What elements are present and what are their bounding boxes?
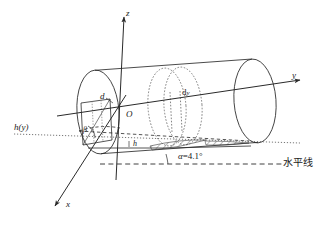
diameter-label: d [100,92,105,101]
liquid-surface-edge [79,131,249,141]
liquid-hatched-region [150,140,249,150]
liquid-wedge-shape-far [205,141,249,145]
depth-function-label: h(y) [14,123,29,132]
coordinate-axes [55,17,300,206]
y-axis-line [57,80,300,116]
cylinder-right-ellipse [231,58,279,145]
alpha-value: =4.1° [183,151,203,161]
cylinder-top-edge [95,59,252,70]
axis-label-y: y [292,71,296,80]
beta-angle-label: β [83,126,87,134]
slice-ellipse-right [161,66,204,147]
slice-tick-left [170,92,172,132]
slice-label-variable: y [187,89,190,97]
axis-label-x: x [66,200,70,209]
x-axis-line [55,95,126,206]
alpha-arc [166,154,168,164]
inner-flap [81,99,112,145]
horizontal-line-label: 水平线 [283,158,313,168]
slice-label-dy: dy [182,88,190,97]
tank-diagram-svg [0,0,327,225]
alpha-angle-label: α=4.1° [178,152,203,161]
figure-container: z y x O d dy h(y) h β α=4.1° 水平线 [0,0,327,225]
origin-label: O [126,110,133,119]
axis-label-z: z [126,9,130,18]
flap-inner-line [83,99,110,145]
depth-label: h [133,140,137,148]
